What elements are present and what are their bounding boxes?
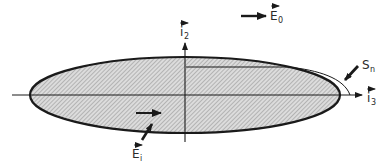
label-external-field-sub: 0 (278, 16, 283, 25)
diagram-stage: E 0 i 2 i 3 S n E i (0, 0, 386, 166)
label-axis-i2: i 2 (180, 23, 189, 41)
label-internal-field-sub: i (140, 154, 142, 163)
label-surface-base: S (362, 58, 370, 72)
label-axis-i3-sub: 3 (371, 98, 376, 107)
label-surface: S n (362, 58, 375, 74)
label-axis-i2-sub: 2 (184, 32, 189, 41)
label-axis-i3: i 3 (367, 89, 376, 107)
label-internal-field: E i (132, 145, 142, 163)
label-axis-i2-base: i (180, 25, 183, 39)
label-external-field: E 0 (270, 6, 283, 25)
label-surface-sub: n (370, 65, 375, 74)
surface-pointer (345, 66, 358, 80)
label-external-field-base: E (270, 9, 278, 23)
label-axis-i3-base: i (367, 91, 370, 105)
label-internal-field-base: E (132, 147, 140, 161)
ellipsoid-field-diagram: E 0 i 2 i 3 S n E i (0, 0, 386, 166)
